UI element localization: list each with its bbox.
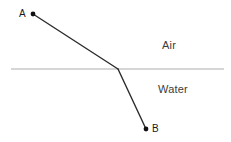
point-b-marker xyxy=(144,127,149,132)
medium-label-air: Air xyxy=(162,39,176,51)
diagram-canvas xyxy=(0,0,231,142)
refracted-ray-line xyxy=(118,69,146,129)
incident-ray-line xyxy=(33,14,118,69)
point-b-label: B xyxy=(152,123,159,134)
medium-label-water: Water xyxy=(158,83,188,95)
point-a-label: A xyxy=(19,8,26,19)
refraction-diagram: A B Air Water xyxy=(0,0,231,142)
point-a-marker xyxy=(31,12,36,17)
